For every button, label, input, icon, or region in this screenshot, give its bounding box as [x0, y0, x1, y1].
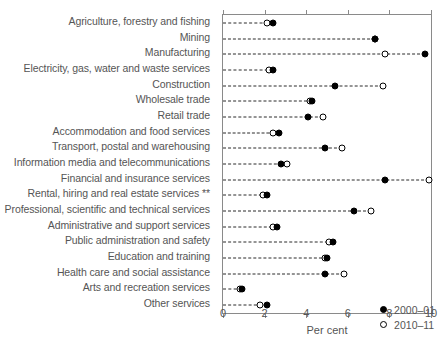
- data-point-2000-01: [269, 19, 276, 26]
- category-label: Mining: [0, 30, 216, 46]
- connector-line: [223, 38, 375, 39]
- data-point-2000-01: [278, 160, 285, 167]
- data-point-2010-11: [340, 270, 347, 277]
- connector-line: [223, 242, 333, 243]
- data-row: [223, 140, 431, 156]
- category-label: Other services: [0, 296, 216, 312]
- category-label: Manufacturing: [0, 45, 216, 61]
- data-row: [223, 125, 431, 141]
- axis-tick: [223, 10, 224, 15]
- connector-line: [223, 258, 327, 259]
- category-label: Agriculture, forestry and fishing: [0, 14, 216, 30]
- category-label: Electricity, gas, water and waste servic…: [0, 61, 216, 77]
- data-point-2010-11: [284, 160, 291, 167]
- legend-item-2010-11: 2010–11: [380, 317, 435, 332]
- x-tick-label: 6: [345, 307, 351, 319]
- data-point-2000-01: [330, 239, 337, 246]
- x-tick-label: 4: [303, 307, 309, 319]
- data-row: [223, 203, 431, 219]
- category-label: Administrative and support services: [0, 218, 216, 234]
- axis-tick: [265, 10, 266, 15]
- data-row: [223, 93, 431, 109]
- data-point-2000-01: [305, 113, 312, 120]
- category-label: Health care and social assistance: [0, 265, 216, 281]
- legend-label: 2010–11: [394, 319, 434, 331]
- connector-line: [223, 54, 425, 55]
- connector-line: [223, 211, 371, 212]
- category-label: Arts and recreation services: [0, 280, 216, 296]
- connector-line: [223, 85, 383, 86]
- category-label: Rental, hiring and real estate services …: [0, 186, 216, 202]
- data-point-2000-01: [321, 145, 328, 152]
- data-row: [223, 266, 431, 282]
- category-label: Construction: [0, 77, 216, 93]
- category-axis-labels: Agriculture, forestry and fishingMiningM…: [0, 14, 216, 312]
- data-row: [223, 235, 431, 251]
- dot-plot-chart: Agriculture, forestry and fishingMiningM…: [0, 0, 447, 356]
- chart-legend: 2000–01 2010–11: [380, 302, 435, 332]
- data-row: [223, 109, 431, 125]
- axis-tick: [431, 10, 432, 15]
- open-circle-icon: [380, 321, 387, 328]
- data-point-2000-01: [324, 255, 331, 262]
- data-row: [223, 15, 431, 31]
- x-tick-label: 2: [262, 307, 268, 319]
- data-point-2000-01: [382, 176, 389, 183]
- connector-line: [223, 101, 312, 102]
- data-point-2000-01: [276, 129, 283, 136]
- data-row: [223, 250, 431, 266]
- legend-label: 2000–01: [394, 304, 435, 316]
- category-label: Retail trade: [0, 108, 216, 124]
- category-label: Professional, scientific and technical s…: [0, 202, 216, 218]
- data-point-2010-11: [338, 145, 345, 152]
- data-point-2000-01: [274, 223, 281, 230]
- data-point-2010-11: [382, 51, 389, 58]
- legend-item-2000-01: 2000–01: [380, 302, 435, 317]
- data-point-2000-01: [351, 208, 358, 215]
- data-row: [223, 282, 431, 298]
- axis-tick: [348, 10, 349, 15]
- category-label: Education and training: [0, 249, 216, 265]
- x-tick-label: 0: [220, 307, 226, 319]
- category-label: Wholesale trade: [0, 92, 216, 108]
- data-point-2000-01: [332, 82, 339, 89]
- category-label: Financial and insurance services: [0, 171, 216, 187]
- category-label: Transport, postal and warehousing: [0, 139, 216, 155]
- connector-line: [223, 179, 429, 180]
- data-point-2000-01: [263, 192, 270, 199]
- data-row: [223, 156, 431, 172]
- data-point-2000-01: [421, 51, 428, 58]
- axis-tick: [306, 10, 307, 15]
- data-point-2000-01: [309, 98, 316, 105]
- data-point-2000-01: [269, 66, 276, 73]
- data-point-2000-01: [321, 270, 328, 277]
- data-point-2010-11: [319, 113, 326, 120]
- data-point-2000-01: [371, 35, 378, 42]
- category-label: Public administration and safety: [0, 233, 216, 249]
- data-point-2010-11: [367, 208, 374, 215]
- data-row: [223, 62, 431, 78]
- data-row: [223, 219, 431, 235]
- plot-area: [222, 14, 432, 314]
- data-point-2000-01: [238, 286, 245, 293]
- axis-tick: [389, 10, 390, 15]
- data-point-2010-11: [380, 82, 387, 89]
- category-label: Information media and telecommunications: [0, 155, 216, 171]
- category-label: Accommodation and food services: [0, 124, 216, 140]
- data-row: [223, 46, 431, 62]
- data-point-2010-11: [425, 176, 432, 183]
- data-row: [223, 172, 431, 188]
- data-row: [223, 188, 431, 204]
- data-row: [223, 31, 431, 47]
- filled-circle-icon: [380, 306, 387, 313]
- data-row: [223, 78, 431, 94]
